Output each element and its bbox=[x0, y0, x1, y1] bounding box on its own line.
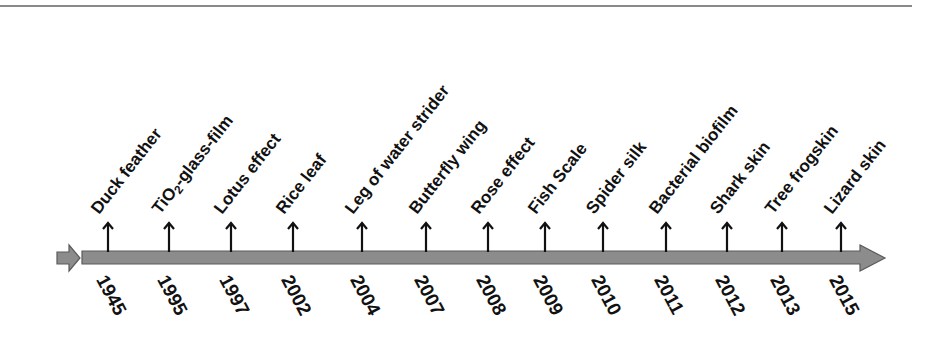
event-label-text: -glass-film bbox=[170, 111, 237, 190]
tick-arrow-icon bbox=[721, 221, 733, 252]
event-year: 2010 bbox=[587, 272, 625, 319]
tick-arrow-icon bbox=[482, 221, 494, 252]
event-year: 2007 bbox=[410, 272, 448, 319]
tick-arrow-icon bbox=[597, 221, 609, 252]
tick-arrow-icon bbox=[225, 221, 237, 252]
event-year: 2013 bbox=[766, 272, 804, 319]
tick-arrow-icon bbox=[356, 221, 368, 252]
event-label: Leg of water strider bbox=[341, 81, 454, 218]
top-rule bbox=[0, 5, 912, 7]
tick-arrow-icon bbox=[660, 221, 672, 252]
event-year: 1945 bbox=[92, 272, 130, 319]
tick-arrow-icon bbox=[539, 221, 551, 252]
event-year: 1997 bbox=[215, 272, 253, 319]
event-year: 1995 bbox=[153, 272, 191, 319]
tick-arrow-icon bbox=[420, 221, 432, 252]
event-year: 2004 bbox=[346, 272, 384, 319]
event-year: 2008 bbox=[472, 272, 510, 319]
tick-arrow-icon bbox=[835, 221, 847, 252]
event-year: 2015 bbox=[825, 272, 863, 319]
event-label: Rice leaf bbox=[272, 151, 331, 218]
event-year: 2009 bbox=[529, 272, 567, 319]
tick-arrow-icon bbox=[102, 221, 114, 252]
tick-arrow-icon bbox=[776, 221, 788, 252]
event-year: 2012 bbox=[711, 272, 749, 319]
tick-arrow-icon bbox=[287, 221, 299, 252]
event-year: 2011 bbox=[650, 272, 687, 318]
event-year: 2002 bbox=[277, 272, 315, 319]
start-arrow-icon bbox=[56, 243, 82, 273]
event-label: Spider silk bbox=[582, 138, 651, 218]
tick-arrow-icon bbox=[163, 221, 175, 252]
